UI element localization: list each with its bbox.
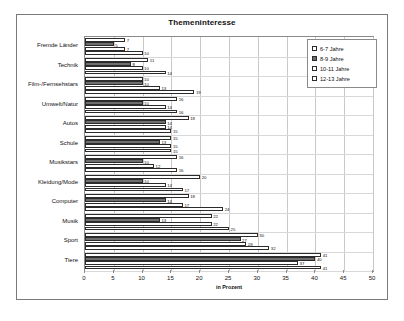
legend-swatch bbox=[312, 56, 317, 61]
legend-label: 6-7 Jahre bbox=[320, 46, 344, 52]
bar-value-label: 16 bbox=[179, 156, 184, 160]
x-tick-label: 5 bbox=[111, 275, 114, 281]
legend-swatch bbox=[312, 76, 317, 81]
bar bbox=[85, 101, 143, 105]
chart-legend: 6-7 Jahre8-9 Jahre10-11 Jahre12-13 Jahre bbox=[307, 39, 377, 88]
x-tick-label: 15 bbox=[167, 275, 174, 281]
bar bbox=[85, 237, 241, 241]
bar-value-label: 17 bbox=[184, 189, 189, 193]
x-tick-label: 45 bbox=[340, 275, 347, 281]
bar-value-label: 18 bbox=[190, 117, 195, 121]
y-axis-label: Kleidung/Mode bbox=[38, 179, 78, 186]
bar-value-label: 15 bbox=[173, 130, 178, 134]
bar bbox=[85, 175, 200, 179]
bar bbox=[85, 51, 143, 55]
x-tick-mark bbox=[142, 270, 143, 273]
y-axis-label: Computer bbox=[52, 198, 78, 205]
bar-value-label: 41 bbox=[323, 254, 328, 258]
x-tick-mark bbox=[113, 270, 114, 273]
bar bbox=[85, 168, 177, 172]
x-tick-label: 40 bbox=[311, 275, 318, 281]
legend-label: 10-11 Jahre bbox=[320, 66, 349, 72]
bar bbox=[85, 214, 212, 218]
chart-screenshot: Themeninteresse Fremde LänderTechnikFilm… bbox=[0, 0, 404, 321]
bar bbox=[85, 42, 114, 46]
bar bbox=[85, 110, 177, 114]
bar bbox=[85, 97, 177, 101]
legend-label: 8-9 Jahre bbox=[320, 56, 344, 62]
x-tick-label: 20 bbox=[196, 275, 203, 281]
bar bbox=[85, 129, 171, 133]
y-axis-label: Technik bbox=[58, 62, 78, 69]
y-axis-label: Autos bbox=[63, 120, 78, 127]
bar bbox=[85, 233, 258, 237]
bar bbox=[85, 179, 143, 183]
bar bbox=[85, 188, 183, 192]
legend-item[interactable]: 10-11 Jahre bbox=[312, 64, 372, 73]
x-tick-label: 30 bbox=[253, 275, 260, 281]
legend-label: 12-13 Jahre bbox=[320, 76, 350, 82]
bar bbox=[85, 257, 315, 261]
bar-value-label: 11 bbox=[150, 59, 154, 63]
bar bbox=[85, 38, 125, 42]
y-axis-label: Film-/Fernsehstars bbox=[28, 81, 78, 88]
bar bbox=[85, 194, 189, 198]
bar-value-label: 14 bbox=[167, 72, 172, 76]
bar bbox=[85, 218, 160, 222]
x-tick-label: 50 bbox=[369, 275, 376, 281]
bar-value-label: 16 bbox=[179, 169, 184, 173]
bar-value-label: 10 bbox=[144, 52, 149, 56]
bar bbox=[85, 116, 189, 120]
bar-value-label: 18 bbox=[190, 195, 195, 199]
bar bbox=[85, 198, 166, 202]
x-tick-mark bbox=[170, 270, 171, 273]
bar bbox=[85, 159, 143, 163]
x-tick-mark bbox=[314, 270, 315, 273]
y-axis-label: Fremde Länder bbox=[37, 42, 78, 49]
bar-value-label: 40 bbox=[317, 258, 322, 262]
bar-value-label: 15 bbox=[173, 150, 178, 154]
bar bbox=[85, 58, 148, 62]
x-tick-mark bbox=[84, 270, 85, 273]
bar-value-label: 24 bbox=[225, 208, 230, 212]
bar bbox=[85, 155, 177, 159]
bar-value-label: 15 bbox=[173, 137, 178, 141]
legend-item[interactable]: 12-13 Jahre bbox=[312, 74, 372, 83]
y-axis-label: Musik bbox=[62, 218, 78, 225]
bar-value-label: 19 bbox=[196, 91, 201, 95]
x-tick-mark bbox=[228, 270, 229, 273]
x-tick-label: 25 bbox=[225, 275, 232, 281]
bar bbox=[85, 140, 160, 144]
bar bbox=[85, 253, 321, 257]
bar bbox=[85, 81, 143, 85]
legend-item[interactable]: 6-7 Jahre bbox=[312, 44, 372, 53]
bar-value-label: 41 bbox=[323, 267, 328, 271]
bar bbox=[85, 246, 269, 250]
bar-value-label: 22 bbox=[213, 215, 218, 219]
x-tick-mark bbox=[343, 270, 344, 273]
bar bbox=[85, 207, 223, 211]
bar bbox=[85, 71, 166, 75]
bar bbox=[85, 136, 171, 140]
x-tick-mark bbox=[199, 270, 200, 273]
y-axis-label: Schule bbox=[60, 140, 78, 147]
bar bbox=[85, 77, 143, 81]
x-tick-label: 10 bbox=[138, 275, 145, 281]
y-axis-labels: Fremde LänderTechnikFilm-/FernsehstarsUm… bbox=[17, 36, 81, 272]
chart-title: Themeninteresse bbox=[17, 18, 387, 27]
x-axis-label: in Prozent bbox=[84, 284, 374, 290]
bar-value-label: 30 bbox=[259, 234, 264, 238]
bar bbox=[85, 266, 321, 270]
legend-swatch bbox=[312, 46, 317, 51]
y-axis-label: Tiere bbox=[65, 257, 78, 264]
y-axis-label: Umwelt/Natur bbox=[42, 101, 78, 108]
x-tick-label: 35 bbox=[282, 275, 289, 281]
bar bbox=[85, 90, 194, 94]
legend-item[interactable]: 8-9 Jahre bbox=[312, 54, 372, 63]
bar bbox=[85, 120, 166, 124]
x-tick-mark bbox=[286, 270, 287, 273]
y-axis-label: Sport bbox=[64, 237, 78, 244]
bar-value-label: 20 bbox=[202, 176, 207, 180]
bar bbox=[85, 227, 229, 231]
bar-value-label: 7 bbox=[127, 39, 129, 43]
